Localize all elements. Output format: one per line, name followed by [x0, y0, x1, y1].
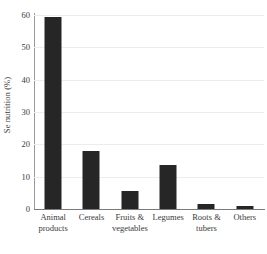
x-axis-line [34, 209, 265, 210]
bar-chart-figure: Se nutrition (%) 0102030405060 Animalpro… [0, 0, 267, 254]
y-axis-label-text: Se nutrition (%) [2, 76, 12, 132]
y-tick-label: 60 [22, 10, 31, 20]
bar[interactable] [83, 151, 100, 209]
x-category-label-line: products [30, 223, 76, 234]
bar-slot [34, 15, 72, 209]
y-tick-label: 10 [22, 172, 31, 182]
x-category-label: Others [222, 212, 267, 223]
bar-slot [72, 15, 110, 209]
plot-area [34, 15, 264, 209]
bar[interactable] [160, 165, 177, 209]
bar[interactable] [198, 204, 215, 209]
bar-series [34, 15, 264, 209]
bar-slot [226, 15, 264, 209]
bar-slot [111, 15, 149, 209]
x-axis-category-labels: AnimalproductsCerealsFruits &vegetablesL… [34, 212, 264, 252]
y-tick-label: 20 [22, 139, 31, 149]
x-category-label-line: vegetables [107, 223, 153, 234]
y-tick-label: 50 [22, 42, 31, 52]
bar[interactable] [236, 206, 253, 209]
y-tick-label: 30 [22, 107, 31, 117]
bar[interactable] [45, 17, 62, 209]
bar-slot [187, 15, 225, 209]
y-axis-tick-labels: 0102030405060 [12, 0, 32, 215]
y-tick-label: 40 [22, 75, 31, 85]
x-category-label-line: tubers [183, 223, 229, 234]
bar-slot [149, 15, 187, 209]
x-category-label-line: Others [222, 212, 267, 223]
bar[interactable] [121, 191, 138, 209]
